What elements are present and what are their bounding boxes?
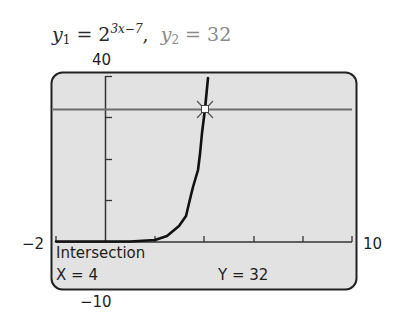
y-readout: Y = 32 — [218, 266, 268, 284]
x-readout: X = 4 — [56, 266, 98, 284]
intersection-label: Intersection — [56, 244, 145, 262]
